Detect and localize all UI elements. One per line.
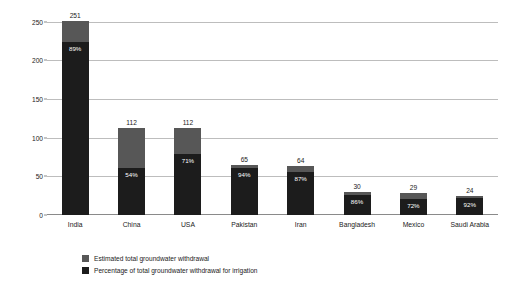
y-tick-mark xyxy=(44,21,47,22)
y-tick-label: 100 xyxy=(32,134,43,141)
groundwater-withdrawal-chart: Estimated total groundwater withdrawal (… xyxy=(0,0,509,294)
x-tick-label: Mexico xyxy=(403,221,425,228)
y-tick-mark xyxy=(44,60,47,61)
bar-value-label: 64 xyxy=(287,157,314,164)
bar-value-label: 251 xyxy=(62,12,89,19)
bar-percent-label: 72% xyxy=(400,202,427,209)
x-tick-label: USA xyxy=(181,221,195,228)
chart-legend: Estimated total groundwater withdrawal P… xyxy=(82,252,257,276)
x-tick-label: India xyxy=(68,221,83,228)
x-axis-line xyxy=(47,214,498,215)
legend-label-irrigation: Percentage of total groundwater withdraw… xyxy=(94,267,257,274)
gridline xyxy=(47,60,498,61)
y-tick-label: 0 xyxy=(39,212,43,219)
bar-value-label: 29 xyxy=(400,184,427,191)
bar-percent-label: 86% xyxy=(344,198,371,205)
gridline xyxy=(47,22,498,23)
bar-percent-label: 87% xyxy=(287,175,314,182)
x-tick-label: Bangladesh xyxy=(339,221,375,228)
bar-group[interactable]: 3086% xyxy=(344,192,371,215)
bar-group[interactable]: 6594% xyxy=(231,165,258,215)
legend-label-total: Estimated total groundwater withdrawal xyxy=(94,255,209,262)
bar-group[interactable]: 11254% xyxy=(118,128,145,215)
bar-group[interactable]: 11271% xyxy=(174,128,201,215)
y-tick-label: 50 xyxy=(36,173,43,180)
y-tick-label: 250 xyxy=(32,18,43,25)
legend-swatch-irrigation xyxy=(82,267,89,274)
bar-value-label: 30 xyxy=(344,183,371,190)
bar-group[interactable]: 25189% xyxy=(62,21,89,215)
x-tick-label: Iran xyxy=(295,221,307,228)
gridline xyxy=(47,99,498,100)
legend-item-irrigation: Percentage of total groundwater withdraw… xyxy=(82,264,257,276)
bar-group[interactable]: 6487% xyxy=(287,166,314,215)
bar-value-label: 24 xyxy=(456,187,483,194)
y-tick-label: 200 xyxy=(32,57,43,64)
bar-percent-label: 94% xyxy=(231,171,258,178)
bar-group[interactable]: 2972% xyxy=(400,193,427,215)
gridline xyxy=(47,176,498,177)
y-tick-mark xyxy=(44,215,47,216)
bar-value-label: 112 xyxy=(174,119,201,126)
plot-area: 05010015020025025189%11254%11271%6594%64… xyxy=(47,14,498,215)
bar-percent-label: 71% xyxy=(174,157,201,164)
bar-segment-irrigation[interactable] xyxy=(62,42,89,215)
bar-value-label: 112 xyxy=(118,119,145,126)
legend-swatch-total xyxy=(82,255,89,262)
legend-item-total: Estimated total groundwater withdrawal xyxy=(82,252,257,264)
bar-percent-label: 89% xyxy=(62,45,89,52)
x-tick-label: Pakistan xyxy=(231,221,257,228)
plot-frame: 05010015020025025189%11254%11271%6594%64… xyxy=(47,14,498,215)
bar-group[interactable]: 2492% xyxy=(456,196,483,215)
y-tick-mark xyxy=(44,99,47,100)
y-tick-mark xyxy=(44,137,47,138)
bar-value-label: 65 xyxy=(231,156,258,163)
x-tick-label: Saudi Arabia xyxy=(451,221,490,228)
x-tick-label: China xyxy=(123,221,141,228)
y-tick-mark xyxy=(44,176,47,177)
bar-percent-label: 54% xyxy=(118,171,145,178)
y-tick-label: 150 xyxy=(32,96,43,103)
gridline xyxy=(47,138,498,139)
bar-percent-label: 92% xyxy=(456,201,483,208)
